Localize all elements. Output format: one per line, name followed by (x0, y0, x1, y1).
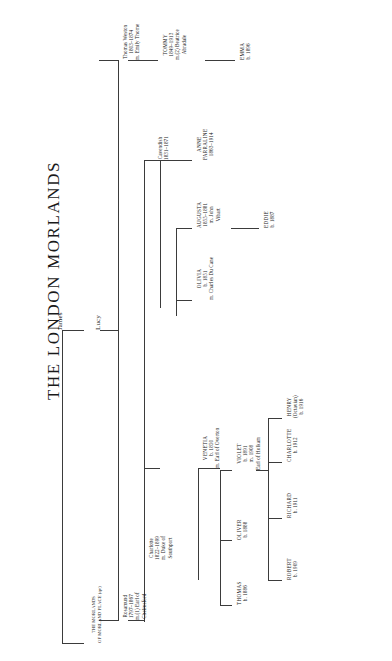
connector-venetia-children-bar (220, 470, 221, 605)
node-venetia: VENETIA b. 1850 m. Earl of Overton (202, 428, 221, 468)
node-cavendish: Cavendish 1831–1871 (157, 136, 169, 160)
page-title: THE LONDON MORLANDS (44, 161, 64, 400)
connector-james-to-lucy (62, 330, 84, 331)
node-richard: RICHARD b. 1911 (286, 493, 298, 518)
connector-cavendish-spine (160, 160, 161, 308)
node-eddie: EDDIE b. 1887 (263, 211, 275, 228)
node-henry: HENRY (Octavian) b. 1916 (286, 395, 305, 418)
node-charlotte: CHARLOTTE b. 1912 (286, 429, 298, 462)
connector-augusta-eddie (231, 228, 259, 229)
connector-charlotte-child-cavendish (144, 160, 160, 161)
node-morland-place-reference: THE MORLANDS OF MORLAND PLACE (qv) (91, 586, 102, 643)
node-anne-farraline: ANNE FARRALINE 1863–1914 (196, 129, 215, 160)
node-thomas-weston: Thomas Weston 1803–1874 m. Emily Thorne (122, 24, 141, 60)
connector-tommy-emma (205, 60, 235, 61)
node-robert: ROBERT b. 1909 (286, 558, 298, 580)
connector-james-to-ref (62, 643, 84, 644)
node-charlotte-duchess: Charlotte 1822–1899 m. Duke of Southport (148, 536, 173, 560)
connector-charlotte-spine (144, 160, 145, 622)
node-violet: VIOLET b. 1891 m. 1908 Earl of Holkam (236, 437, 261, 470)
connector-to-olivia (176, 300, 192, 301)
family-tree-chart: THE LONDON MORLANDS James L (0, 0, 392, 661)
connector-lucy-spine (118, 60, 119, 620)
connector-cavendish-anne (160, 160, 192, 161)
connector-charlotte-child-venetia (144, 468, 160, 469)
node-lucy: Lucy (94, 315, 103, 330)
connector-to-violet (220, 470, 232, 471)
node-olivia: OLIVIA b. 1851 m. Charles Du Cane (196, 257, 215, 300)
connector-violet-out (256, 470, 268, 471)
node-augusta: AUGUSTA 1855–1881 m. John Vibart (196, 202, 221, 228)
connector-rosamund-out (128, 620, 144, 621)
node-tommy: TOMMY 1849–1913 m.(2) Beatrice Abradale (162, 29, 187, 60)
connector-to-robert (268, 580, 282, 581)
connector-james-stem (62, 330, 63, 643)
connector-venetia-spine (198, 468, 199, 580)
connector-to-richard (268, 518, 282, 519)
connector-augusta-olivia-spine (176, 228, 177, 316)
connector-to-henry (268, 418, 282, 419)
connector-to-oliver (220, 540, 232, 541)
connector-lucy-out (100, 330, 118, 331)
node-rosamund: Rosamund 1797–1867 m.(1) Earl of Chelmsf… (122, 592, 147, 620)
connector-thomasweston-tommy (128, 60, 158, 61)
connector-to-charlotte (268, 462, 282, 463)
connector-to-augusta (176, 228, 192, 229)
node-thomas: THOMAS b. 1886 (236, 581, 248, 605)
connector-venetia-in (198, 468, 220, 469)
connector-to-thomas (220, 605, 232, 606)
node-oliver: OLIVER b. 1888 (236, 519, 248, 540)
connector-violet-children-spine (268, 418, 269, 580)
node-james: James (56, 312, 65, 330)
connector-lucy-child-thomasweston (99, 60, 119, 61)
node-emma: EMMA b. 1896 (239, 43, 251, 60)
